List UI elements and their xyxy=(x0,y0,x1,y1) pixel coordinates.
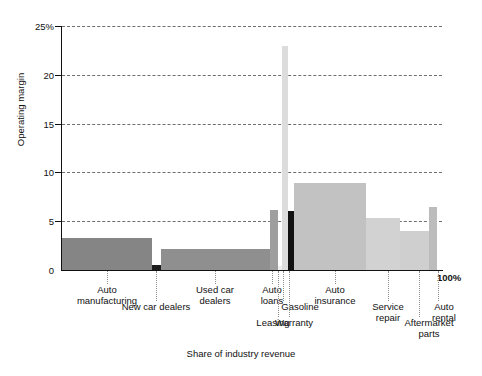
category-label-warranty: Warranty xyxy=(263,317,325,328)
x-axis-line xyxy=(61,270,443,271)
bar-used-car-dealers xyxy=(161,249,270,270)
bar-auto-insurance xyxy=(294,183,366,270)
y-tick-label-25: 25% xyxy=(10,21,54,32)
leader-auto-manufacturing xyxy=(107,271,108,284)
y-axis-tick-labels: 25% 20 15 10 5 0 xyxy=(0,0,54,300)
leader-gasoline xyxy=(283,271,284,301)
bar-aftermarket-parts xyxy=(400,231,429,270)
gridline-20 xyxy=(62,75,442,76)
leader-new-car-dealers xyxy=(156,271,157,301)
gridline-15 xyxy=(62,124,442,125)
leader-auto-loans xyxy=(272,271,273,284)
y-axis-title: Operating margin xyxy=(15,50,26,170)
bar-new-car-dealers xyxy=(152,265,161,270)
bar-auto-loans xyxy=(270,210,278,270)
chart-page: 25% 20 15 10 5 0 Operating margin 100% S… xyxy=(0,0,482,376)
y-tick-label-5: 5 xyxy=(10,216,54,227)
y-tick-label-0: 0 xyxy=(10,265,54,276)
leader-used-car-dealers xyxy=(215,271,216,284)
leader-warranty xyxy=(289,271,290,317)
bar-auto-rental xyxy=(429,207,437,270)
x-axis-max-label: 100% xyxy=(437,272,461,283)
bar-auto-manufacturing xyxy=(62,238,152,270)
plot-area xyxy=(62,26,442,270)
leader-auto-rental xyxy=(438,271,439,301)
category-label-used-car-dealers: Used car dealers xyxy=(176,284,254,306)
x-axis-title: Share of industry revenue xyxy=(0,348,482,359)
bar-service-repair xyxy=(366,218,400,270)
category-label-auto-rental: Auto rental xyxy=(420,301,468,323)
leader-auto-insurance xyxy=(335,271,336,284)
gridline-25 xyxy=(62,26,442,27)
leader-service-repair xyxy=(388,271,389,301)
gridline-10 xyxy=(62,172,442,173)
